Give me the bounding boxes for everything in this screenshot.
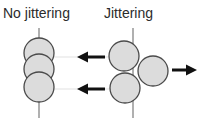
- arrow-left-lower-head: [77, 84, 88, 95]
- circles-group: [24, 38, 168, 103]
- jittering-diagram: [0, 0, 201, 125]
- circle-upper-left-jittering: [109, 41, 139, 71]
- arrow-right: [172, 65, 197, 76]
- circle-bottom-no-jittering: [24, 72, 54, 102]
- arrow-left-lower: [77, 84, 105, 95]
- arrow-left-upper: [77, 52, 105, 63]
- arrow-left-upper-head: [77, 52, 88, 63]
- arrow-right-head: [186, 65, 197, 76]
- circle-right-jittering: [138, 56, 168, 86]
- circle-lower-left-jittering: [110, 73, 140, 103]
- figure-canvas: No jittering Jittering: [0, 0, 201, 125]
